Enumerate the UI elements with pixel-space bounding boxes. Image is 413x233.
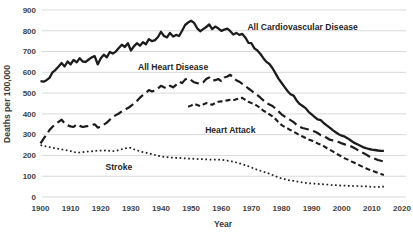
x-tick-label-1990: 1990 — [303, 204, 321, 213]
x-tick-label-1930: 1930 — [122, 204, 140, 213]
y-tick-label-500: 500 — [23, 89, 37, 98]
x-tick-label-1920: 1920 — [92, 204, 110, 213]
y-tick-label-700: 700 — [23, 47, 37, 56]
x-axis-title: Year — [214, 219, 233, 229]
gridlines — [42, 10, 406, 197]
chart-plot-area: 0100200300400500600700800900190019101920… — [0, 0, 413, 233]
series-label-all-heart-disease: All Heart Disease — [138, 62, 208, 72]
x-tick-label-1910: 1910 — [62, 204, 80, 213]
y-tick-label-400: 400 — [23, 110, 37, 119]
y-tick-label-200: 200 — [23, 151, 37, 160]
x-tick-label-2000: 2000 — [333, 204, 351, 213]
y-axis-title: Deaths per 100,000 — [2, 65, 12, 143]
x-tick-label-2010: 2010 — [363, 204, 381, 213]
series-label-all-cardiovascular-disease: All Cardiovascular Disease — [247, 22, 358, 32]
x-tick-label-1980: 1980 — [273, 204, 291, 213]
series-lines — [41, 21, 384, 187]
x-tick-label-1950: 1950 — [182, 204, 200, 213]
series-line-all-heart-disease — [41, 75, 384, 162]
series-label-stroke: Stroke — [105, 162, 132, 172]
cvd-mortality-chart: 0100200300400500600700800900190019101920… — [0, 0, 413, 233]
x-tick-label-1970: 1970 — [242, 204, 260, 213]
x-tick-label-1940: 1940 — [152, 204, 170, 213]
series-line-heart-attack — [188, 98, 384, 175]
y-tick-label-300: 300 — [23, 130, 37, 139]
x-tick-label-1960: 1960 — [212, 204, 230, 213]
series-label-heart-attack: Heart Attack — [205, 125, 256, 135]
series-annotations: All Cardiovascular DiseaseAll Heart Dise… — [105, 22, 358, 172]
y-tick-label-0: 0 — [32, 193, 37, 202]
x-tick-label-2020: 2020 — [393, 204, 411, 213]
y-tick-label-100: 100 — [23, 172, 37, 181]
axis-tick-labels: 0100200300400500600700800900190019101920… — [23, 6, 412, 213]
y-tick-label-600: 600 — [23, 68, 37, 77]
x-tick-label-1900: 1900 — [32, 204, 50, 213]
y-tick-label-800: 800 — [23, 27, 37, 36]
y-tick-label-900: 900 — [23, 6, 37, 15]
